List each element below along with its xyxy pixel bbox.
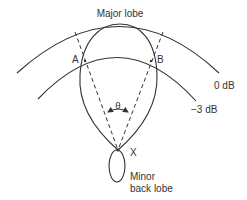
- zero-db-label: 0 dB: [214, 80, 235, 91]
- minor-lobe-label-line1: Minor: [130, 171, 156, 182]
- minus-three-db-arc: [38, 57, 196, 101]
- zero-db-arc: [17, 27, 219, 74]
- major-lobe-shape: [80, 24, 157, 150]
- diagram-canvas: Major lobe A B 0 dB −3 dB θ X Minor back…: [0, 0, 247, 200]
- major-lobe-label: Major lobe: [97, 8, 144, 19]
- origin-label: X: [130, 147, 137, 158]
- point-a-marker: [84, 60, 86, 62]
- theta-label: θ: [115, 100, 120, 111]
- point-b-label: B: [157, 54, 164, 65]
- point-a-label: A: [72, 54, 79, 65]
- point-b-marker: [150, 60, 152, 62]
- minus-three-db-label: −3 dB: [191, 104, 218, 115]
- minor-lobe-label-line2: back lobe: [130, 183, 173, 194]
- minor-back-lobe-shape: [109, 150, 125, 182]
- radiation-pattern-diagram: Major lobe A B 0 dB −3 dB θ X Minor back…: [0, 0, 247, 200]
- dashed-line-a: [75, 32, 118, 150]
